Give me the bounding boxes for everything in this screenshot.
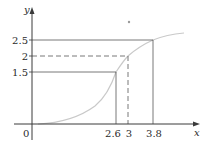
x-tick-label-3.8: 3.8 (146, 128, 162, 139)
x-tick-label-3: 3 (126, 128, 132, 139)
y-axis-arrow-icon (30, 7, 35, 14)
x-axis-label: x (194, 127, 200, 138)
guide-lines (32, 40, 153, 124)
x-axis-arrow-icon (193, 122, 200, 127)
marker-dot (128, 21, 130, 23)
y-axis-label: y (23, 4, 30, 15)
y-tick-label-2: 2 (22, 51, 28, 62)
axes (14, 7, 200, 140)
function-graph: y x 0 2.5 2 1.5 2.6 3 3.8 (0, 0, 211, 150)
origin-label: 0 (23, 128, 29, 139)
y-tick-label-2.5: 2.5 (12, 35, 28, 46)
y-tick-label-1.5: 1.5 (12, 67, 28, 78)
x-tick-label-2.6: 2.6 (105, 128, 121, 139)
function-curve (38, 33, 184, 124)
